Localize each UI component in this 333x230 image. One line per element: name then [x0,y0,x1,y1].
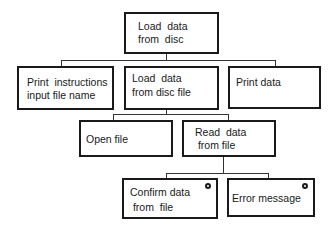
node-print-instructions: Print instructions input file name [17,66,114,110]
node-label-line1: Print instructions [27,76,108,89]
node-label-line1: Load data [138,20,188,33]
connector-level3-bar [113,114,229,115]
node-label-line2: from disc [138,33,184,46]
node-label-line1: Read data [195,126,246,139]
node-label-line2: from file [195,139,235,152]
connector-level2-bar [61,60,276,61]
node-read-data-from-file: Read data from file [182,120,276,157]
node-label-line2: input file name [27,89,95,102]
node-load-data-from-disc: Load data from disc [124,12,219,54]
node-error-message: Error message [227,178,315,217]
node-print-data: Print data [228,66,321,109]
circle-marker-icon [302,183,308,189]
connector-level4-bar [166,173,269,174]
node-label-line2: from file [130,201,173,214]
node-label-line1: Load data [132,72,182,85]
connector-root-down [166,53,167,60]
node-label-line1: Print data [236,76,281,89]
node-open-file: Open file [79,120,173,157]
node-label-line1: Error message [232,192,301,205]
node-confirm-data-from-file: Confirm data from file [122,178,218,219]
node-label-line1: Confirm data [130,186,190,199]
circle-marker-icon [205,183,211,189]
node-label-line1: Open file [86,133,128,146]
connector-read-down [223,156,224,174]
node-load-data-from-disc-file: Load data from disc file [124,66,219,110]
node-label-line2: from disc file [132,86,191,99]
